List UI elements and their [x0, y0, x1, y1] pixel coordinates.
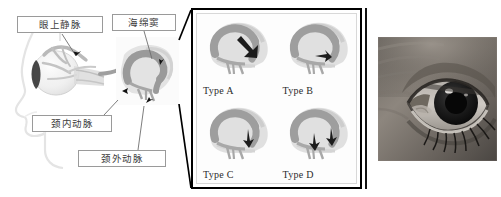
figure-root: 眼上静脉 海绵窦 颈内动脉 颈外动脉 [0, 0, 501, 197]
type-cell-a: Type A [197, 14, 277, 99]
label-cavernous-sinus: 海绵窦 [112, 14, 176, 31]
type-cell-c: Type C [197, 99, 277, 184]
type-d-artwork [281, 101, 359, 163]
type-c-label: Type C [203, 169, 234, 180]
label-external-carotid-artery: 颈外动脉 [78, 150, 166, 167]
type-d-label: Type D [283, 169, 314, 180]
type-b-artwork [281, 16, 359, 78]
panel-divider-rule [365, 8, 367, 189]
middle-panel-barrow-types: Type A Type B [191, 8, 362, 189]
label-superior-ophthalmic-vein: 眼上静脉 [17, 16, 103, 33]
left-panel: 眼上静脉 海绵窦 颈内动脉 颈外动脉 [0, 0, 190, 197]
type-a-artwork [201, 16, 279, 78]
type-a-label: Type A [203, 85, 234, 96]
label-internal-carotid-artery: 颈内动脉 [32, 115, 112, 132]
type-cell-d: Type D [277, 99, 357, 184]
pupil [445, 92, 467, 114]
eye-photo-artwork [378, 37, 497, 161]
type-cell-b: Type B [277, 14, 357, 99]
clinical-eye-photograph [378, 37, 497, 161]
type-c-artwork [201, 101, 279, 163]
type-b-label: Type B [283, 85, 314, 96]
